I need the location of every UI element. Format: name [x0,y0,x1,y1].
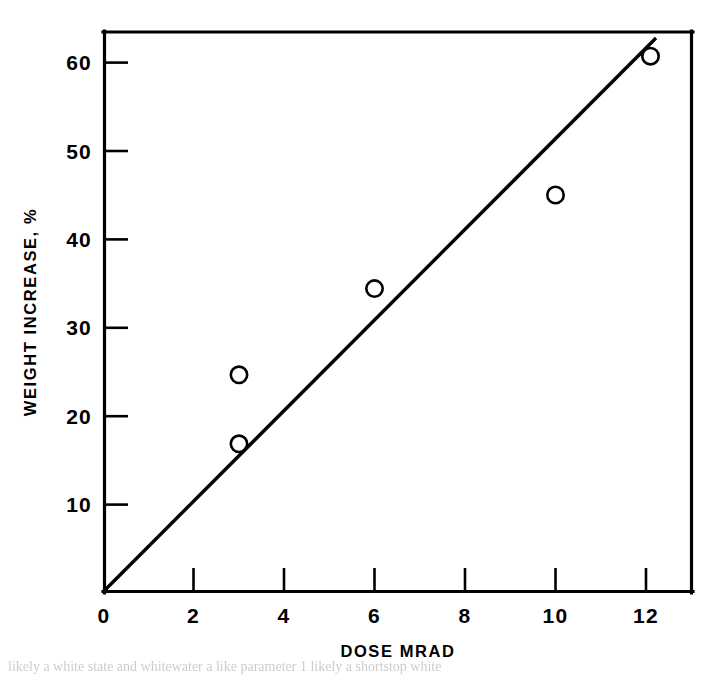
y-tick-label-40: 40 [66,228,92,251]
data-point-marker [547,187,563,203]
y-tick-labels: 60 50 40 30 20 10 [66,51,92,516]
plot-frame [103,31,693,593]
y-tick-label-10: 10 [66,493,92,516]
y-tick-label-50: 50 [66,140,92,163]
x-tick-label-10: 10 [543,604,569,627]
y-axis-title: WEIGHT INCREASE, % [21,208,39,416]
x-tick-label-6: 6 [368,604,381,627]
x-tick-label-8: 8 [459,604,472,627]
page-bleed-text: likely a white state and whitewater a li… [0,656,725,678]
x-tick-label-2: 2 [187,604,200,627]
y-tick-label-20: 20 [66,405,92,428]
x-axis-ticks [194,568,647,590]
fitted-trend-line [104,38,656,591]
x-tick-label-12: 12 [633,604,659,627]
data-point-marker [366,280,382,296]
x-tick-label-0: 0 [98,604,111,627]
data-point-marker [231,436,247,452]
y-tick-label-60: 60 [66,51,92,74]
page-bleed-text-line: likely a white state and whitewater a li… [0,656,725,678]
x-tick-labels: 0 2 4 6 8 10 12 [98,604,659,627]
data-point-marker [231,367,247,383]
x-tick-label-4: 4 [278,604,291,627]
y-tick-label-30: 30 [66,316,92,339]
y-axis-ticks [106,63,128,505]
data-point-marker [642,48,658,64]
figure-panel: 60 50 40 30 20 10 0 2 4 6 8 10 12 DOSE M… [0,0,725,678]
scatter-plot: 60 50 40 30 20 10 0 2 4 6 8 10 12 DOSE M… [0,0,725,678]
